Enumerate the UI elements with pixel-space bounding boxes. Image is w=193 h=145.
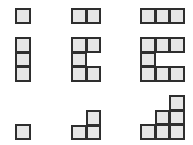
square-cell [140, 124, 156, 140]
square-cell [155, 124, 170, 140]
square-cell [15, 52, 31, 67]
square-cell [86, 110, 101, 126]
square-cell [169, 66, 185, 82]
square-cell [169, 124, 185, 140]
square-cell [140, 8, 156, 24]
square-cell [155, 8, 170, 24]
square-cell [86, 66, 101, 82]
square-cell [140, 66, 156, 82]
square-cell [15, 124, 31, 140]
square-cell [155, 37, 170, 53]
square-cell [140, 52, 156, 67]
square-cell [86, 8, 101, 24]
square-cell [86, 37, 101, 53]
square-cell [71, 52, 87, 67]
square-cell [140, 37, 156, 53]
square-cell [169, 37, 185, 53]
square-cell [71, 8, 87, 24]
square-cell [169, 8, 185, 24]
square-cell [169, 95, 185, 111]
square-cell [71, 125, 87, 140]
square-cell [169, 110, 185, 125]
square-cell [155, 110, 170, 125]
square-cell [155, 66, 170, 82]
square-cell [15, 37, 31, 53]
square-cell [86, 125, 101, 140]
square-cell [71, 66, 87, 82]
square-cell [71, 37, 87, 53]
square-cell [15, 8, 31, 24]
square-cell [15, 66, 31, 82]
